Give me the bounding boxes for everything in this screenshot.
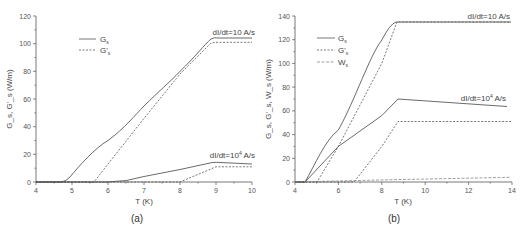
y-axis-label-a: G_s, G'_s (W/m): [5, 69, 14, 129]
svg-text:8: 8: [380, 187, 384, 194]
legend-label-gps: G's: [338, 46, 349, 56]
y-tick-labels-b: 0 20 40 60 80 100 120 140: [278, 13, 290, 186]
y-axis-label-b: G_s, G'_s, W_s (W/m): [264, 59, 273, 139]
legend-label-ws: Ws: [338, 58, 349, 68]
x-ticks-b: [295, 182, 512, 185]
svg-text:20: 20: [23, 151, 31, 158]
svg-text:6: 6: [106, 187, 110, 194]
chart-panel-b: 0 20 40 60 80 100 120 140 4 6 8 10 12 14…: [264, 12, 516, 224]
y-ticks-a: [33, 16, 36, 182]
svg-text:100: 100: [19, 40, 31, 47]
svg-text:10: 10: [248, 187, 256, 194]
svg-text:100: 100: [278, 60, 290, 67]
annotation-high-rate-b: dI/dt=10 A/s: [468, 12, 510, 21]
svg-text:8: 8: [178, 187, 182, 194]
svg-text:12: 12: [465, 187, 473, 194]
svg-text:6: 6: [336, 187, 340, 194]
svg-text:20: 20: [282, 155, 290, 162]
legend-label-gps: G's: [100, 46, 111, 56]
series-ws: [295, 177, 511, 182]
series-gps-low: [295, 122, 511, 183]
legend-a: Gs G's: [79, 35, 111, 56]
series-gs-low: [295, 99, 507, 182]
legend-label-gs: Gs: [100, 35, 109, 45]
series-gs-high: [36, 38, 252, 182]
chart-panel-a: 0 20 40 60 80 100 120 4 5 6 7 8 9 10 T (…: [5, 13, 256, 225]
svg-text:40: 40: [23, 123, 31, 130]
x-ticks-a: [36, 182, 252, 185]
svg-text:0: 0: [27, 179, 31, 186]
x-tick-labels-b: 4 6 8 10 12 14: [293, 187, 516, 194]
figure: 0 20 40 60 80 100 120 4 5 6 7 8 9 10 T (…: [0, 0, 521, 234]
svg-text:10: 10: [421, 187, 429, 194]
svg-text:14: 14: [508, 187, 516, 194]
panel-label-b: (b): [388, 213, 400, 224]
svg-text:9: 9: [214, 187, 218, 194]
panel-label-a: (a): [131, 213, 143, 224]
svg-text:120: 120: [278, 36, 290, 43]
x-axis-label-b: T (K): [394, 197, 412, 206]
x-tick-labels-a: 4 5 6 7 8 9 10: [34, 187, 256, 194]
svg-text:4: 4: [293, 187, 297, 194]
y-tick-labels-a: 0 20 40 60 80 100 120: [19, 13, 31, 186]
svg-text:40: 40: [282, 131, 290, 138]
series-gps-high: [36, 42, 252, 182]
svg-text:80: 80: [23, 68, 31, 75]
series-gps-low: [36, 167, 252, 182]
svg-text:140: 140: [278, 13, 290, 20]
svg-text:0: 0: [286, 179, 290, 186]
legend-label-gs: Gs: [338, 34, 347, 44]
svg-text:4: 4: [34, 187, 38, 194]
svg-text:7: 7: [142, 187, 146, 194]
annotation-low-rate-b: dI/dt=104 A/s: [461, 93, 506, 103]
legend-b: Gs G's Ws: [317, 34, 349, 68]
svg-text:5: 5: [70, 187, 74, 194]
svg-text:120: 120: [19, 13, 31, 20]
annotation-high-rate-a: dI/dt=10 A/s: [213, 28, 255, 37]
x-axis-label-a: T (K): [135, 197, 153, 206]
annotation-low-rate-a: dI/dt=104 A/s: [210, 150, 255, 160]
svg-text:60: 60: [282, 107, 290, 114]
svg-text:80: 80: [282, 84, 290, 91]
svg-text:60: 60: [23, 96, 31, 103]
y-ticks-b: [292, 16, 295, 182]
